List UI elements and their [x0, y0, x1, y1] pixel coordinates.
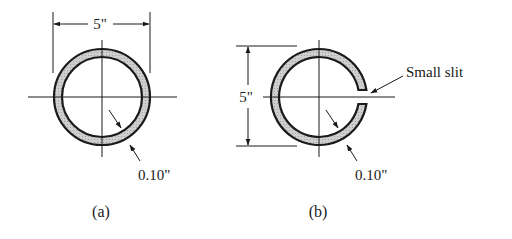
caption-b: (b): [309, 203, 328, 221]
diameter-label-b: 5": [239, 89, 253, 105]
figure-b: 5" Small slit 0.10" (b): [236, 40, 464, 221]
centerlines-a: [28, 40, 177, 157]
diameter-label-a: 5": [93, 16, 107, 32]
thickness-label-a: 0.10": [138, 167, 170, 183]
caption-a: (a): [92, 203, 110, 221]
tube-cross-section-diagram: 5" 0.10" (a) 5" Small slit: [0, 0, 512, 239]
slit-label: Small slit: [406, 64, 464, 80]
slit-leader: [371, 76, 403, 93]
thickness-label-b: 0.10": [355, 167, 387, 183]
figure-a: 5" 0.10" (a): [28, 12, 177, 221]
